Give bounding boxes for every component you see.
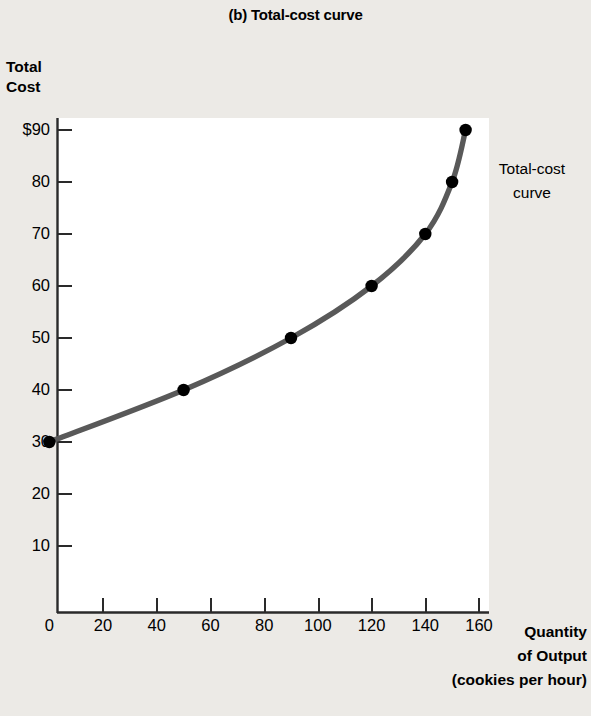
curve-annotation-line1: Total-cost bbox=[499, 160, 565, 177]
x-tick-marks bbox=[103, 598, 479, 613]
curve-annotation-label: Total-cost curve bbox=[479, 157, 585, 205]
data-point-marker bbox=[365, 280, 377, 292]
x-tick-label: 20 bbox=[83, 617, 123, 633]
y-tick-label: 50 bbox=[2, 329, 50, 345]
y-tick-label: 10 bbox=[2, 537, 50, 553]
y-tick-label: 20 bbox=[2, 485, 50, 501]
y-tick-label: 40 bbox=[2, 381, 50, 397]
y-tick-label: 70 bbox=[2, 225, 50, 241]
y-tick-label: 30 bbox=[2, 433, 50, 449]
data-point-marker bbox=[285, 332, 297, 344]
data-point-marker bbox=[446, 176, 458, 188]
x-axis-title-line2: of Output bbox=[380, 644, 587, 668]
x-tick-label: 40 bbox=[137, 617, 177, 633]
x-tick-label: 0 bbox=[29, 617, 69, 633]
x-axis-title: Quantity of Output (cookies per hour) bbox=[380, 620, 587, 692]
curve-annotation-line2: curve bbox=[479, 181, 585, 205]
data-point-marker bbox=[419, 228, 431, 240]
data-point-marker bbox=[459, 124, 471, 136]
x-tick-label: 100 bbox=[298, 617, 338, 633]
x-axis-title-line3: (cookies per hour) bbox=[380, 668, 587, 692]
x-tick-label: 80 bbox=[244, 617, 284, 633]
y-tick-label: $90 bbox=[2, 121, 50, 137]
total-cost-curve-figure: (b) Total-cost curve Total Cost bbox=[0, 0, 591, 716]
total-cost-curve-line bbox=[49, 130, 465, 442]
data-point-marker bbox=[177, 384, 189, 396]
y-tick-label: 60 bbox=[2, 277, 50, 293]
total-cost-curve-points bbox=[43, 124, 472, 448]
y-tick-marks bbox=[57, 130, 72, 546]
chart-graphics bbox=[0, 0, 591, 716]
x-axis-title-line1: Quantity bbox=[380, 620, 587, 644]
x-tick-label: 60 bbox=[190, 617, 230, 633]
y-tick-label: 80 bbox=[2, 173, 50, 189]
